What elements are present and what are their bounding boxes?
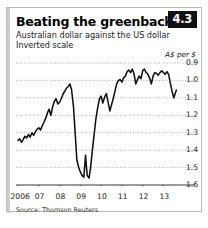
y-axis-tick-label: 1.4 [186,145,198,154]
x-axis-tick-label: 08 [56,192,66,201]
y-axis-tick-label: 1.0 [186,75,198,84]
x-axis-tick-label: 13 [159,192,169,201]
y-axis-tick-label: 1.3 [186,128,198,137]
x-axis-tick-label: 09 [76,192,86,201]
y-axis-tick-label: 0.9 [186,58,198,67]
page-title: Beating the greenback [16,14,172,29]
x-axis-tick-label: 12 [139,192,149,201]
source-note: Source: Thomson Reuters [16,206,98,214]
data-line-aud-per-usd [18,69,176,178]
chart-scale-note: Inverted scale [16,40,73,50]
chart-card: Beating the greenback 4.3 Australian dol… [6,7,202,212]
line-chart-svg [16,62,194,186]
y-axis-tick-label: 1.2 [186,110,198,119]
left-accent-bar [7,8,10,213]
x-axis-tick-label: 10 [97,192,107,201]
x-axis-labels: 200607080910111213 [16,192,194,204]
y-axis-labels: 0.91.01.11.21.31.41.51.6 [178,62,198,186]
x-axis-tick-label: 07 [35,192,45,201]
x-axis-tick-label: 11 [118,192,128,201]
figure-number-badge: 4.3 [168,11,197,28]
x-axis-tick-label: 2006 [11,192,30,201]
chart-subtitle: Australian dollar against the US dollar [16,30,170,40]
y-axis-tick-label: 1.6 [186,180,198,189]
y-axis-tick-label: 1.5 [186,163,198,172]
y-axis-tick-label: 1.1 [186,93,198,102]
plot-area [16,62,194,186]
